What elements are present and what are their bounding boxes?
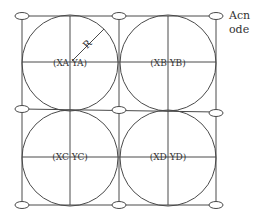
node-top-left (15, 13, 29, 20)
circle-grid-diagram: R (XA YA) (XB YB) (XC YC) (XD YD) (0, 0, 256, 218)
anode-label-line1: Acn (229, 9, 250, 23)
node-bottom-right (209, 202, 223, 209)
circle-d-label: (XD YD) (150, 152, 187, 162)
circle-c-label: (XC YC) (52, 152, 88, 162)
circle-a-label: (XA YA) (53, 58, 87, 68)
node-middle-right (209, 110, 223, 117)
anode-label: Acn ode (229, 9, 250, 37)
radius-label: R (81, 37, 94, 50)
circle-group-a: R (XA YA) (22, 15, 119, 111)
node-top-middle (112, 13, 126, 20)
circle-group-c: (XC YC) (22, 109, 119, 206)
node-top-right (209, 13, 223, 20)
node-bottom-left (15, 202, 29, 209)
node-middle-left (15, 106, 29, 113)
node-bottom-middle (112, 202, 126, 209)
anode-label-line2: ode (229, 23, 250, 37)
circle-group-b: (XB YB) (119, 15, 216, 111)
circle-group-d: (XD YD) (119, 110, 216, 206)
circle-b-label: (XB YB) (150, 58, 185, 68)
node-middle-center (112, 107, 126, 114)
